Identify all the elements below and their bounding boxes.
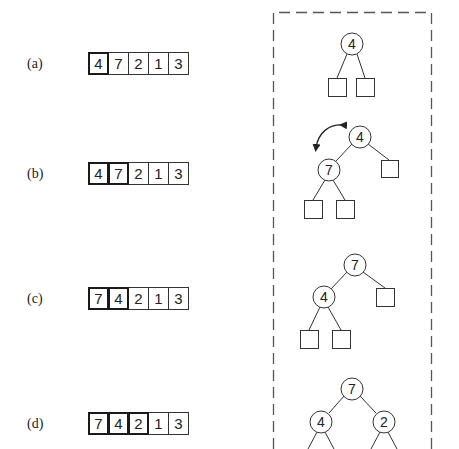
array-cell: 4 (88, 162, 109, 185)
tree-b-left: 7 (325, 162, 333, 178)
tree-leaf (337, 201, 355, 219)
tree-leaf (382, 161, 399, 178)
tree-leaf (301, 331, 319, 349)
tree-leaf (305, 201, 323, 219)
tree-b-root: 4 (356, 129, 364, 145)
tree-c (301, 254, 395, 349)
tree-a-root: 4 (348, 36, 356, 52)
array-cell: 4 (108, 412, 129, 435)
tree-d-left: 4 (317, 414, 325, 430)
tree-leaf (377, 289, 395, 307)
tree-leaf (333, 331, 351, 349)
tree-b (305, 125, 399, 219)
array-cell: 2 (128, 412, 149, 435)
array-cell: 4 (108, 287, 129, 310)
array-cell: 4 (88, 52, 109, 75)
tree-d-root: 7 (348, 381, 356, 397)
heap-construction-diagram: (a) (b) (c) (d) 4 7 2 1 3 4 7 2 1 3 7 4 … (0, 0, 459, 449)
tree-leaf (329, 79, 347, 97)
tree-d-right: 2 (380, 414, 388, 430)
tree-leaf (357, 79, 375, 97)
tree-c-root: 7 (351, 257, 359, 273)
trees-panel: 4 4 7 7 4 (0, 0, 459, 449)
array-cell: 7 (88, 287, 109, 310)
array-cell: 7 (88, 412, 109, 435)
array-cell: 7 (108, 162, 129, 185)
swap-arrow-icon (316, 125, 343, 148)
tree-c-left: 4 (320, 289, 328, 305)
